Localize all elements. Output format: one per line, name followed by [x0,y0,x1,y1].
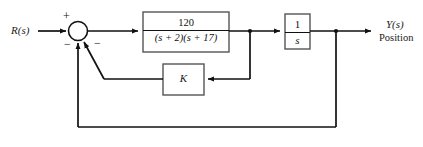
integrator-numerator: 1 [285,18,310,31]
plant-denominator: (s + 2)(s + 17) [143,32,229,44]
plant-numerator: 120 [143,17,229,29]
gain-block-label: K [163,73,204,84]
sign-minus-outer-feedback: − [64,38,71,50]
tap-dot-outer [334,29,338,33]
plant-transfer-function: 120 (s + 2)(s + 17) [143,17,229,44]
sign-plus-input: + [63,10,70,22]
input-signal-label: R(s) [11,25,29,36]
integrator-transfer-function: 1 s [285,18,310,46]
tap-dot-inner [248,29,252,33]
output-sublabel: Position [379,33,413,44]
integrator-fraction-bar [285,32,310,33]
sign-minus-inner-feedback: − [94,37,101,49]
block-diagram: R(s) + − − 120 (s + 2)(s + 17) 1 s K Y(s… [0,0,423,147]
plant-fraction-bar [143,30,229,31]
summing-junction [69,22,88,41]
integrator-denominator: s [285,34,310,47]
output-signal-label: Y(s) [386,19,404,30]
